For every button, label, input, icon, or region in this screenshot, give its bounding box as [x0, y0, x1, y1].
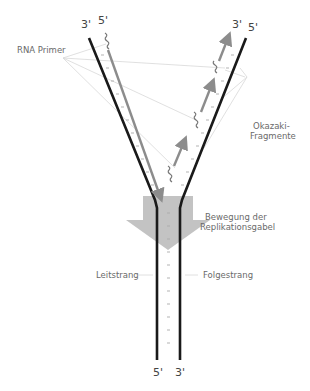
- label-bottom-right-3prime: 3': [175, 367, 185, 379]
- label-rna-primer: RNA Primer: [17, 45, 66, 55]
- label-top-left-5prime: 5': [98, 15, 108, 27]
- label-okazaki-line1: Okazaki-: [253, 121, 290, 131]
- label-lagging-strand: Folgestrang: [203, 270, 253, 280]
- label-top-left-3prime: 3': [81, 19, 91, 31]
- leading-strand-new: [105, 33, 160, 196]
- label-leading-strand: Leitstrang: [96, 270, 139, 280]
- label-top-right-3prime: 3': [232, 19, 242, 31]
- label-okazaki-line2: Fragmente: [250, 131, 296, 141]
- rna-primer-squiggle: [105, 33, 109, 49]
- fork-direction-arrow: [126, 196, 210, 250]
- label-bottom-left-5prime: 5': [153, 367, 163, 379]
- label-top-right-5prime: 5': [248, 22, 258, 34]
- label-fork-movement-line2: Replikationsgabel: [200, 222, 275, 232]
- label-fork-movement-line1: Bewegung der: [205, 212, 267, 222]
- replication-fork-diagram: [0, 0, 310, 391]
